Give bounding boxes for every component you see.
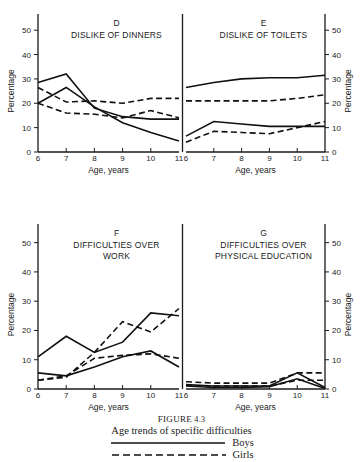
y-tick-label-D-0: 0 <box>27 148 32 157</box>
figure-title: Age trends of specific difficulties <box>0 425 363 436</box>
x-axis-title-F: Age, years <box>88 402 129 412</box>
panel-letter-G: G <box>260 228 267 238</box>
y-tick-label-G-0: 0 <box>332 385 337 394</box>
x-tick-label-G-9: 9 <box>267 391 272 400</box>
panel-letter-D: D <box>113 18 119 28</box>
x-tick-label-E-10: 10 <box>293 154 302 163</box>
y-tick-label-F-50: 50 <box>22 239 31 248</box>
y-tick-label-E-0: 0 <box>332 148 337 157</box>
y-tick-label-F-30: 30 <box>22 297 31 306</box>
y-tick-label-G-10: 10 <box>332 356 341 365</box>
panel-title-E-line0: DISLIKE OF TOILETS <box>220 30 308 40</box>
legend-swatch-dashed <box>110 451 228 459</box>
legend-label-boys: Boys <box>232 437 254 448</box>
series-D-Boys-2 <box>38 87 179 141</box>
y-tick-label-G-50: 50 <box>332 239 341 248</box>
panel-D: 6789101101020304050PercentageAge, yearsD… <box>6 14 184 175</box>
x-tick-label-F-10: 10 <box>146 391 155 400</box>
y-tick-label-F-40: 40 <box>22 268 31 277</box>
x-tick-label-E-11: 11 <box>321 154 330 163</box>
legend-entry-boys: Boys <box>0 437 363 448</box>
legend-swatch-solid <box>109 439 227 447</box>
y-tick-label-G-20: 20 <box>332 326 341 335</box>
panel-F: 6789101101020304050PercentageAge, yearsF… <box>6 224 184 412</box>
y-tick-label-D-40: 40 <box>22 51 31 60</box>
figure-number-label: FIGURE <box>158 414 192 424</box>
series-F-Girls-1 <box>38 309 179 381</box>
y-tick-label-E-40: 40 <box>332 51 341 60</box>
figure-number: 4.3 <box>194 415 205 424</box>
y-tick-label-F-10: 10 <box>22 356 31 365</box>
y-tick-label-D-50: 50 <box>22 26 31 35</box>
x-tick-label-G-8: 8 <box>239 391 244 400</box>
x-axis-title-D: Age, years <box>88 165 129 175</box>
x-axis-title-E: Age, years <box>235 165 276 175</box>
y-tick-label-D-30: 30 <box>22 75 31 84</box>
y-tick-label-D-10: 10 <box>22 124 31 133</box>
x-tick-label-D-9: 9 <box>120 154 125 163</box>
series-E-Girls-1 <box>186 95 325 101</box>
y-tick-label-G-40: 40 <box>332 268 341 277</box>
series-D-Girls-1 <box>38 87 179 103</box>
x-tick-label-G-7: 7 <box>212 391 217 400</box>
y-tick-label-E-30: 30 <box>332 75 341 84</box>
panel-title-D-line0: DISLIKE OF DINNERS <box>71 30 162 40</box>
x-tick-label-E-6: 6 <box>184 154 189 163</box>
y-tick-label-G-30: 30 <box>332 297 341 306</box>
series-F-Girls-2 <box>38 354 179 380</box>
panel-title-F-line1: WORK <box>103 251 130 261</box>
panel-title-F-line0: DIFFICULTIES OVER <box>73 240 159 250</box>
figure-plot-area: 6789101101020304050PercentageAge, yearsD… <box>0 0 363 414</box>
x-tick-label-E-7: 7 <box>212 154 217 163</box>
x-tick-label-F-11: 11 <box>175 391 184 400</box>
x-tick-label-G-6: 6 <box>184 391 189 400</box>
y-tick-label-F-20: 20 <box>22 326 31 335</box>
x-tick-label-G-10: 10 <box>293 391 302 400</box>
x-tick-label-F-9: 9 <box>120 391 125 400</box>
panel-title-G-line0: DIFFICULTIES OVER <box>220 240 306 250</box>
x-tick-label-D-7: 7 <box>64 154 69 163</box>
panel-title-G-line1: PHYSICAL EDUCATION <box>215 251 312 261</box>
x-tick-label-D-6: 6 <box>36 154 41 163</box>
y-tick-label-E-20: 20 <box>332 99 341 108</box>
x-tick-label-F-6: 6 <box>36 391 41 400</box>
x-tick-label-G-11: 11 <box>321 391 330 400</box>
panel-E: 6789101101020304050PercentageAge, yearsE… <box>184 14 353 175</box>
y-axis-title-E: Percentage <box>343 69 353 113</box>
figure-caption: FIGURE 4.3 Age trends of specific diffic… <box>0 414 363 460</box>
x-tick-label-E-9: 9 <box>267 154 272 163</box>
y-axis-title-D: Percentage <box>6 69 16 113</box>
panel-letter-E: E <box>261 18 267 28</box>
panel-letter-F: F <box>114 228 119 238</box>
figure-container: 6789101101020304050PercentageAge, yearsD… <box>0 0 363 462</box>
y-tick-label-F-0: 0 <box>27 385 32 394</box>
legend-entry-girls: Girls <box>0 449 363 460</box>
y-axis-title-F: Percentage <box>6 292 16 336</box>
x-tick-label-F-7: 7 <box>64 391 69 400</box>
x-tick-label-F-8: 8 <box>92 391 97 400</box>
series-E-Boys-1 <box>186 75 325 87</box>
figure-number-line: FIGURE 4.3 <box>0 414 363 424</box>
y-tick-label-E-50: 50 <box>332 26 341 35</box>
x-axis-title-G: Age, years <box>235 402 276 412</box>
x-tick-label-E-8: 8 <box>239 154 244 163</box>
y-tick-label-E-10: 10 <box>332 124 341 133</box>
y-tick-label-D-20: 20 <box>22 99 31 108</box>
series-F-Boys-1 <box>38 313 179 357</box>
x-tick-label-D-11: 11 <box>175 154 184 163</box>
x-tick-label-D-8: 8 <box>92 154 97 163</box>
x-tick-label-D-10: 10 <box>146 154 155 163</box>
legend-label-girls: Girls <box>233 449 254 460</box>
y-axis-title-G: Percentage <box>343 292 353 336</box>
panel-G: 6789101101020304050PercentageAge, yearsG… <box>184 224 353 412</box>
